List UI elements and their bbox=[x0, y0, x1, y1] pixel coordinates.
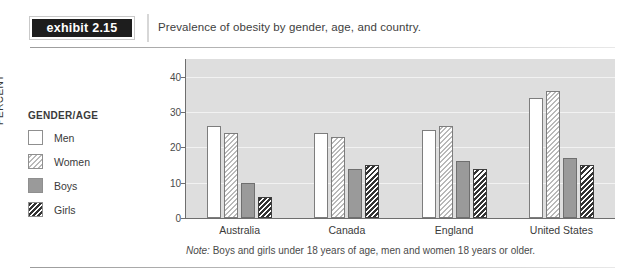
legend-item-girls: Girls bbox=[28, 202, 138, 217]
exhibit-title: Prevalence of obesity by gender, age, an… bbox=[158, 21, 421, 33]
y-tick-label: 20 bbox=[159, 142, 181, 153]
boys-swatch bbox=[28, 178, 43, 193]
y-tick-mark bbox=[181, 112, 185, 113]
bar-girls-england bbox=[473, 169, 487, 218]
bar-boys-england bbox=[456, 161, 470, 218]
legend-label-women: Women bbox=[54, 156, 90, 168]
y-axis-line bbox=[185, 59, 186, 219]
bar-women-england bbox=[439, 126, 453, 218]
bar-boys-canada bbox=[348, 169, 362, 218]
exhibit-header: exhibit 2.15 Prevalence of obesity by ge… bbox=[0, 0, 638, 47]
y-tick-label: 0 bbox=[159, 213, 181, 224]
bar-women-canada bbox=[331, 137, 345, 218]
y-axis-title: PERCENT bbox=[0, 74, 5, 125]
bar-men-canada bbox=[314, 133, 328, 218]
title-divider bbox=[147, 14, 149, 42]
chart-legend: GENDER/AGE Men Women Boys Girls bbox=[28, 110, 138, 226]
legend-label-boys: Boys bbox=[54, 180, 77, 192]
bar-men-australia bbox=[207, 126, 221, 218]
bar-girls-united-states bbox=[580, 165, 594, 218]
legend-item-women: Women bbox=[28, 154, 138, 169]
bars-layer bbox=[186, 59, 615, 218]
y-tick-mark bbox=[181, 77, 185, 78]
chart-note: Note: Boys and girls under 18 years of a… bbox=[186, 245, 535, 256]
x-tick-label: Canada bbox=[328, 224, 365, 236]
note-text: Boys and girls under 18 years of age, me… bbox=[210, 245, 535, 256]
bar-group bbox=[401, 59, 508, 218]
bar-men-england bbox=[422, 130, 436, 218]
y-tick-label: 30 bbox=[159, 107, 181, 118]
x-tick-label: Australia bbox=[219, 224, 260, 236]
legend-title: GENDER/AGE bbox=[28, 110, 138, 121]
bar-men-united-states bbox=[529, 98, 543, 218]
women-swatch bbox=[28, 154, 43, 169]
chart-plot-area bbox=[186, 59, 615, 218]
legend-label-men: Men bbox=[54, 132, 74, 144]
divider-top bbox=[30, 47, 615, 48]
y-tick-mark bbox=[181, 147, 185, 148]
y-tick-mark bbox=[181, 183, 185, 184]
bar-group bbox=[508, 59, 615, 218]
y-tick-label: 10 bbox=[159, 177, 181, 188]
exhibit-badge: exhibit 2.15 bbox=[30, 17, 134, 39]
x-tick-label: England bbox=[435, 224, 474, 236]
y-axis-ticks: 010203040 bbox=[155, 59, 181, 218]
bar-boys-australia bbox=[241, 183, 255, 218]
bar-girls-canada bbox=[365, 165, 379, 218]
note-lead: Note: bbox=[186, 245, 210, 256]
x-axis-line bbox=[185, 218, 615, 219]
bar-group bbox=[293, 59, 400, 218]
legend-item-boys: Boys bbox=[28, 178, 138, 193]
divider-bottom bbox=[30, 267, 615, 268]
men-swatch bbox=[28, 130, 43, 145]
bar-women-united-states bbox=[546, 91, 560, 218]
girls-swatch bbox=[28, 202, 43, 217]
x-tick-label: United States bbox=[530, 224, 593, 236]
y-tick-mark bbox=[181, 218, 185, 219]
y-tick-label: 40 bbox=[159, 71, 181, 82]
exhibit-badge-number: 2.15 bbox=[92, 21, 117, 35]
exhibit-badge-word: exhibit bbox=[47, 21, 89, 35]
legend-label-girls: Girls bbox=[54, 204, 76, 216]
bar-women-australia bbox=[224, 133, 238, 218]
bar-boys-united-states bbox=[563, 158, 577, 218]
bar-group bbox=[186, 59, 293, 218]
legend-item-men: Men bbox=[28, 130, 138, 145]
bar-girls-australia bbox=[258, 197, 272, 218]
